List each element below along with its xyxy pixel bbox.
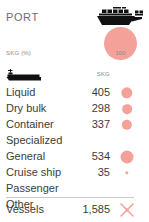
row-value: 298 <box>58 102 110 114</box>
row-value: 534 <box>58 150 110 162</box>
row-label: Liquid <box>6 86 35 98</box>
row-bubble <box>122 104 132 114</box>
table-row[interactable]: Passenger <box>0 181 149 197</box>
row-bubble-cell <box>112 117 142 133</box>
row-label: Passenger <box>6 182 59 194</box>
total-value: 1,585 <box>58 203 110 215</box>
row-bubble <box>121 151 134 164</box>
row-bubble <box>122 120 132 130</box>
row-bubble <box>125 171 128 174</box>
table-row[interactable]: General 534 <box>0 149 149 165</box>
row-label: General <box>6 150 45 162</box>
table-row[interactable]: Container 337 <box>0 117 149 133</box>
widget-header: PORT <box>0 0 149 62</box>
row-value: 337 <box>58 118 110 130</box>
x-mark-icon <box>112 202 142 218</box>
row-bubble-cell <box>112 165 142 181</box>
total-label: Vessels <box>6 203 44 215</box>
row-bubble-cell <box>112 85 142 101</box>
table-row[interactable]: Specialized <box>0 133 149 149</box>
unit-label: SKG (%) <box>6 50 31 56</box>
row-bubble <box>121 87 132 98</box>
row-label: Cruise ship <box>6 166 61 178</box>
page-title: PORT <box>6 11 39 23</box>
row-bubble-cell <box>112 181 142 197</box>
row-value: 35 <box>58 166 110 178</box>
table-row[interactable]: Liquid 405 <box>0 85 149 101</box>
port-statistics-widget: PORT <box>0 0 149 222</box>
legend-bubble-value: 100 <box>104 50 137 56</box>
row-label: Dry bulk <box>6 102 46 114</box>
total-row: Vessels 1,585 <box>0 202 149 218</box>
row-bubble-cell <box>112 101 142 117</box>
row-bubble-cell <box>112 133 142 149</box>
cargo-ship-icon <box>96 6 144 28</box>
tanker-boat-icon <box>6 68 42 81</box>
table-column-headers: SKG <box>0 66 149 82</box>
row-label: Specialized <box>6 134 62 146</box>
table-row[interactable]: Cruise ship 35 <box>0 165 149 181</box>
total-divider <box>6 197 134 198</box>
category-rows: Liquid 405 Dry bulk 298 Container 337 Sp… <box>0 85 149 213</box>
row-bubble-cell <box>112 149 142 165</box>
row-value: 405 <box>58 86 110 98</box>
table-row[interactable]: Dry bulk 298 <box>0 101 149 117</box>
column-header-skg: SKG <box>60 71 110 77</box>
row-label: Container <box>6 118 54 130</box>
